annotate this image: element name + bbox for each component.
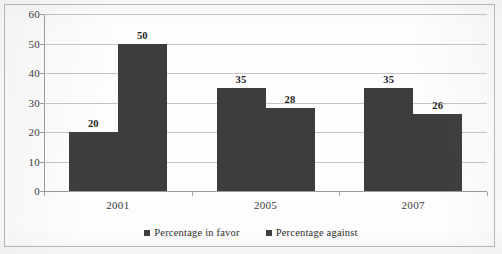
gridline <box>44 73 487 74</box>
y-axis-tick-label: 10 <box>12 156 40 168</box>
legend-item[interactable]: Percentage against <box>266 227 358 238</box>
y-axis-tick-label: 30 <box>12 97 40 109</box>
gridline <box>44 14 487 15</box>
bar-chart-figure: 6050403020100 205035283526 Percentage in… <box>0 0 502 254</box>
x-axis-tick-label: 2001 <box>106 199 129 211</box>
y-axis-tick-label: 20 <box>12 126 40 138</box>
y-axis-tick-label: 50 <box>12 38 40 50</box>
x-axis-tick-mark <box>339 192 340 196</box>
plot-area: 205035283526 <box>44 14 487 191</box>
x-axis-tick-mark <box>487 192 488 196</box>
y-axis-tick-mark <box>40 132 44 133</box>
bar <box>266 108 315 191</box>
legend-item-label: Percentage in favor <box>154 227 239 238</box>
x-axis-tick-label: 2007 <box>402 199 425 211</box>
y-axis-tick-label: 60 <box>12 8 40 20</box>
legend-item-label: Percentage against <box>276 227 358 238</box>
square-marker-icon <box>144 230 150 236</box>
bar-value-label: 35 <box>383 74 394 85</box>
x-axis-tick-label: 2005 <box>254 199 277 211</box>
x-axis-tick-mark <box>192 192 193 196</box>
bar <box>413 114 462 191</box>
bar-value-label: 28 <box>285 94 296 105</box>
square-marker-icon <box>266 230 272 236</box>
y-axis-tick-label: 0 <box>12 185 40 197</box>
bar-value-label: 26 <box>432 100 443 111</box>
gridline <box>44 44 487 45</box>
bar-value-label: 35 <box>236 74 247 85</box>
bar-value-label: 50 <box>137 30 148 41</box>
bar <box>118 44 167 192</box>
y-axis-tick-mark <box>40 73 44 74</box>
y-axis-tick-mark <box>40 14 44 15</box>
gridline <box>44 103 487 104</box>
x-axis-line <box>44 191 487 192</box>
y-axis-tick-mark <box>40 162 44 163</box>
y-axis: 6050403020100 <box>4 0 40 254</box>
legend-item[interactable]: Percentage in favor <box>144 227 239 238</box>
chart-legend: Percentage in favorPercentage against <box>0 227 502 238</box>
bar-value-label: 20 <box>88 118 99 129</box>
bar <box>364 88 413 191</box>
y-axis-tick-mark <box>40 103 44 104</box>
y-axis-tick-label: 40 <box>12 67 40 79</box>
bar <box>69 132 118 191</box>
x-axis-tick-mark <box>44 192 45 196</box>
y-axis-tick-mark <box>40 44 44 45</box>
bar <box>217 88 266 191</box>
